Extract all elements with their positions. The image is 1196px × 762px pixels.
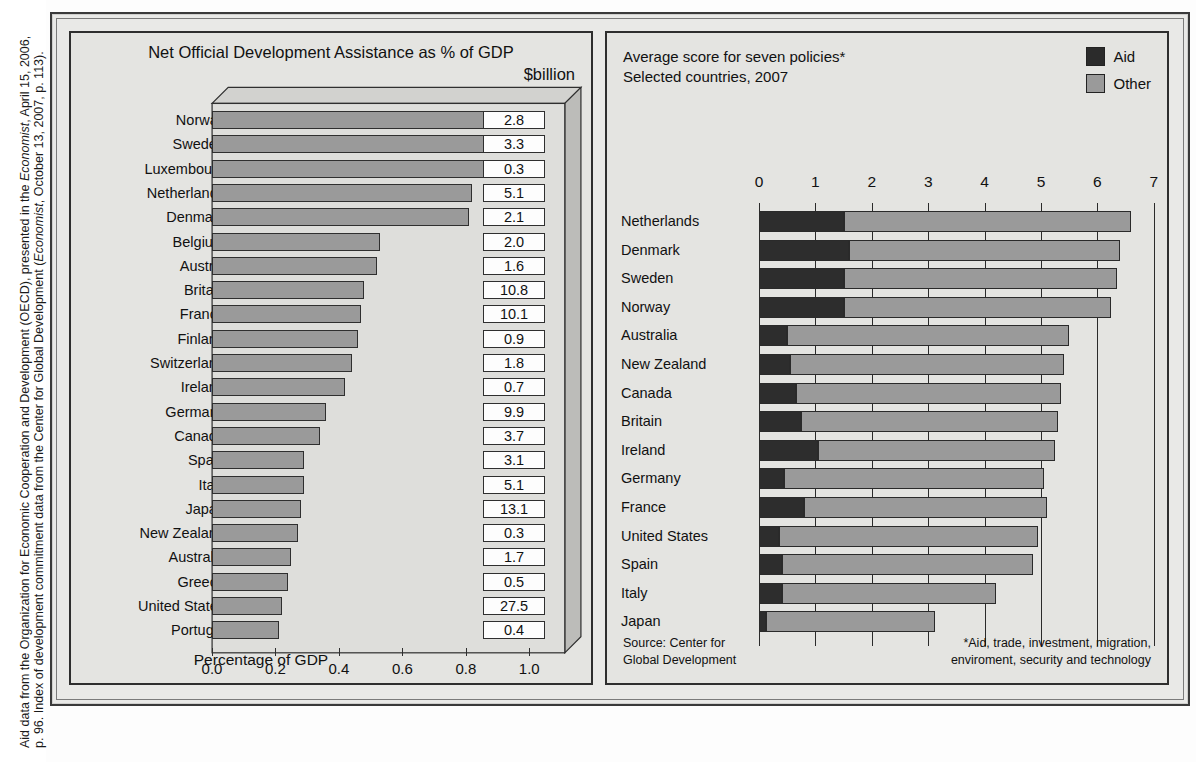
left-chart-bar — [212, 160, 488, 178]
right-chart-bar-segment-aid — [759, 240, 849, 261]
right-chart-tick-label: 2 — [857, 173, 887, 191]
right-chart-bar-segment-aid — [759, 526, 779, 547]
right-chart-bar-segment-other — [787, 325, 1069, 346]
left-chart-bar — [212, 184, 472, 202]
left-chart-plot: Norway2.8Sweden3.3Luxembourg0.3Netherlan… — [71, 33, 591, 683]
left-chart-bar — [212, 233, 380, 251]
left-chart-value-box: 0.3 — [483, 524, 545, 542]
right-chart-tick-label: 1 — [800, 173, 830, 191]
left-chart-value-box: 1.6 — [483, 257, 545, 275]
right-chart-panel: Average score for seven policies* Select… — [605, 31, 1169, 685]
caption-line-2-italic: Economist — [32, 203, 46, 261]
right-chart-bar-segment-aid — [759, 554, 782, 575]
source-line-1: Source: Center for — [623, 635, 736, 652]
right-chart-gridline — [1154, 203, 1155, 646]
right-chart-bar-segment-other — [801, 411, 1058, 432]
left-chart-panel: Net Official Development Assistance as %… — [69, 31, 593, 685]
right-chart-bar-segment-aid — [759, 440, 818, 461]
caption-line-2-part-a: p. 96. Index of development commitment d… — [32, 262, 46, 748]
right-chart-category-label: Britain — [621, 414, 662, 428]
footnote-line-1: *Aid, trade, investment, migration, — [951, 635, 1151, 652]
right-chart-bar-segment-other — [779, 526, 1038, 547]
right-chart-tick-label: 6 — [1082, 173, 1112, 191]
right-chart-bar-segment-aid — [759, 383, 796, 404]
left-chart-value-box: 5.1 — [483, 184, 545, 202]
left-chart-value-box: 9.9 — [483, 403, 545, 421]
left-chart-value-box: 3.1 — [483, 451, 545, 469]
right-chart-footnote: *Aid, trade, investment, migration, envi… — [951, 635, 1151, 669]
caption-line-1-part-c: , April 15, 2006, — [18, 36, 32, 123]
right-chart-category-label: Spain — [621, 557, 658, 571]
left-chart-value-box: 2.1 — [483, 208, 545, 226]
left-chart-value-box: 10.8 — [483, 281, 545, 299]
right-chart-bar-segment-other — [766, 611, 935, 632]
left-chart-bar — [212, 305, 361, 323]
right-chart-bar-segment-aid — [759, 583, 782, 604]
left-chart-bar — [212, 257, 377, 275]
right-chart-bar-segment-aid — [759, 497, 804, 518]
left-chart-value-box: 3.3 — [483, 135, 545, 153]
right-chart-category-label: Denmark — [621, 243, 680, 257]
left-chart-bar — [212, 597, 282, 615]
left-chart-tick-mark — [529, 648, 530, 656]
left-chart-bar — [212, 573, 288, 591]
left-chart-value-box: 2.8 — [483, 111, 545, 129]
right-chart-bar-segment-other — [782, 554, 1033, 575]
right-chart-category-label: Germany — [621, 471, 681, 485]
left-chart-value-box: 27.5 — [483, 597, 545, 615]
left-chart-axis-title: Percentage of GDP — [1, 651, 521, 669]
right-chart-source: Source: Center for Global Development — [623, 635, 736, 669]
right-chart-tick-label: 0 — [744, 173, 774, 191]
left-chart-value-box: 1.8 — [483, 354, 545, 372]
right-chart-bar-segment-other — [844, 268, 1118, 289]
right-chart-category-label: Sweden — [621, 271, 673, 285]
footnote-line-2: enviroment, security and technology — [951, 652, 1151, 669]
left-chart-value-box: 2.0 — [483, 233, 545, 251]
figure-inner-frame: Net Official Development Assistance as %… — [56, 18, 1184, 700]
right-chart-tick-label: 7 — [1139, 173, 1169, 191]
right-chart-bar-segment-aid — [759, 211, 844, 232]
right-chart-bar-segment-aid — [759, 468, 784, 489]
right-chart-category-label: Canada — [621, 386, 672, 400]
right-chart-category-label: Norway — [621, 300, 670, 314]
right-chart-bar-segment-other — [818, 440, 1055, 461]
right-chart-category-label: New Zealand — [621, 357, 706, 371]
caption-line-1-italic: Economist — [18, 123, 32, 181]
left-chart-bar — [212, 500, 301, 518]
right-chart-bar-segment-aid — [759, 354, 790, 375]
right-chart-bar-segment-other — [782, 583, 996, 604]
figure-outer-frame: Net Official Development Assistance as %… — [50, 12, 1190, 706]
left-chart-bar — [212, 524, 298, 542]
right-chart-bar-segment-other — [784, 468, 1043, 489]
left-chart-value-box: 1.7 — [483, 548, 545, 566]
right-chart-plot: 01234567NetherlandsDenmarkSwedenNorwayAu… — [607, 33, 1167, 683]
right-chart-bar-segment-aid — [759, 297, 844, 318]
right-chart-category-label: Japan — [621, 614, 661, 628]
left-chart-bar — [212, 354, 352, 372]
left-chart-bar — [212, 548, 291, 566]
figure-page: Aid data from the Organization for Econo… — [0, 0, 1196, 762]
right-chart-bar-segment-other — [796, 383, 1061, 404]
right-chart-tick-label: 5 — [1026, 173, 1056, 191]
right-chart-category-label: France — [621, 500, 666, 514]
right-chart-tick-label: 4 — [970, 173, 1000, 191]
left-chart-value-box: 0.9 — [483, 330, 545, 348]
caption-line-1: Aid data from the Organization for Econo… — [18, 36, 33, 748]
caption-line-2-part-c: , October 13, 2007, p. 113). — [32, 51, 46, 203]
left-chart-bar — [212, 208, 469, 226]
right-chart-bar-segment-other — [804, 497, 1047, 518]
source-line-2: Global Development — [623, 652, 736, 669]
right-chart-bar-segment-other — [849, 240, 1120, 261]
left-chart-bar — [212, 403, 326, 421]
left-chart-bar — [212, 476, 304, 494]
left-chart-value-box: 10.1 — [483, 305, 545, 323]
left-chart-value-box: 0.7 — [483, 378, 545, 396]
left-chart-value-box: 0.4 — [483, 621, 545, 639]
left-chart-value-box: 0.5 — [483, 573, 545, 591]
right-chart-category-label: Ireland — [621, 443, 665, 457]
figure-caption: Aid data from the Organization for Econo… — [0, 0, 46, 762]
left-chart-value-box: 5.1 — [483, 476, 545, 494]
right-chart-tick-label: 3 — [913, 173, 943, 191]
left-chart-bar — [212, 135, 510, 153]
left-chart-bar — [212, 330, 358, 348]
